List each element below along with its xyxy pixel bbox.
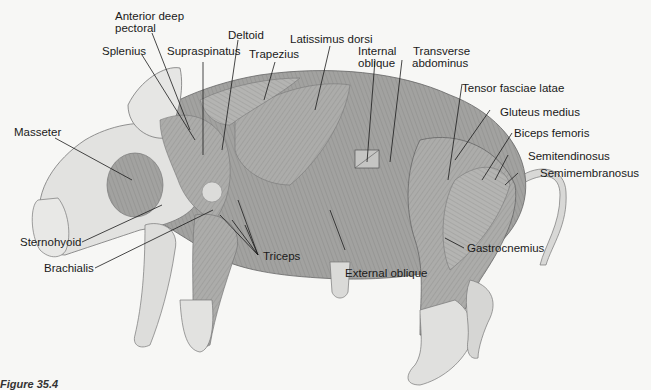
label-semimembranosus: Semimembranosus — [540, 167, 639, 179]
label-brachialis: Brachialis — [44, 262, 94, 274]
label-splenius: Splenius — [102, 45, 146, 57]
masseter-muscle — [107, 153, 163, 217]
label-transverse-abdominus-2: abdominus — [412, 57, 468, 69]
hind-foot-2 — [466, 280, 493, 358]
shoulder-joint — [202, 182, 222, 202]
label-latissimus-dorsi: Latissimus dorsi — [290, 33, 372, 45]
label-gastrocnemius: Gastrocnemius — [467, 242, 544, 254]
label-internal-oblique-2: oblique — [358, 57, 395, 69]
label-masseter: Masseter — [14, 126, 61, 138]
label-semitendinosus: Semitendinosus — [528, 150, 610, 162]
label-anterior-deep-pectoral-1: Anterior deep — [115, 10, 184, 22]
fore-leg-far — [134, 224, 175, 347]
label-anterior-deep-pectoral-2: pectoral — [115, 22, 156, 34]
label-tensor-fasciae-latae: Tensor fasciae latae — [462, 82, 564, 94]
figure-caption: Figure 35.4 — [0, 378, 58, 390]
label-triceps: Triceps — [263, 250, 300, 262]
label-supraspinatus: Supraspinatus — [167, 45, 241, 57]
label-transverse-abdominus-1: Transverse — [413, 45, 470, 57]
label-deltoid: Deltoid — [228, 29, 264, 41]
anatomy-figure: Anterior deep pectoral Deltoid Latissimu… — [0, 0, 651, 390]
fore-foot — [180, 300, 213, 352]
label-external-oblique: External oblique — [345, 267, 427, 279]
hind-foot — [408, 300, 473, 385]
pig-illustration — [0, 0, 651, 390]
label-biceps-femoris: Biceps femoris — [514, 127, 589, 139]
label-internal-oblique-1: Internal — [358, 45, 396, 57]
label-trapezius: Trapezius — [249, 48, 299, 60]
label-gluteus-medius: Gluteus medius — [500, 106, 580, 118]
label-sternohyoid: Sternohyoid — [20, 236, 81, 248]
